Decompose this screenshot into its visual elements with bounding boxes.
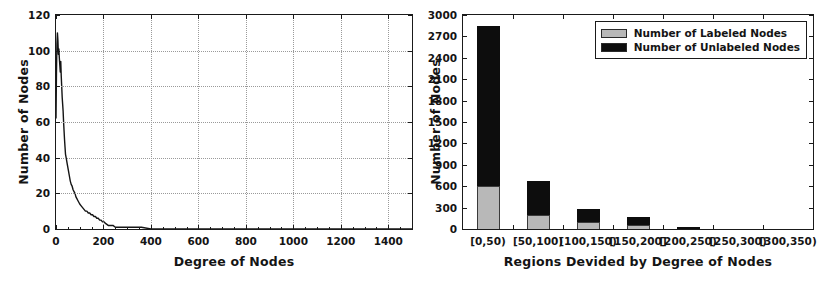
y-tick-label: 1500 (428, 116, 457, 128)
bar-segment-labeled (627, 225, 650, 229)
x-tick-mark (293, 15, 294, 19)
x-tick-label: [0,50) (470, 235, 506, 247)
left-chart-y-axis-label: Number of Nodes (16, 59, 31, 185)
x-tick-mark (151, 15, 152, 19)
x-tick-mark (341, 15, 342, 19)
y-tick-mark (463, 79, 467, 80)
y-tick-mark (463, 15, 467, 16)
bar-segment-labeled (477, 186, 500, 229)
x-minor-tick-mark (68, 227, 69, 229)
chart-legend: Number of Labeled NodesNumber of Unlabel… (595, 21, 807, 59)
gridline-vertical (198, 15, 199, 229)
x-tick-mark (103, 15, 104, 19)
x-minor-tick-mark (210, 227, 211, 229)
stacked-bar (627, 217, 650, 229)
y-tick-mark (809, 79, 813, 80)
bar-segment-unlabeled (527, 181, 550, 216)
y-tick-label: 1200 (428, 137, 457, 149)
x-minor-tick-mark (115, 227, 116, 229)
bar-segment-labeled (577, 222, 600, 229)
x-tick-mark (763, 15, 764, 19)
x-minor-tick-mark (127, 227, 128, 229)
y-tick-mark (56, 122, 60, 123)
x-tick-mark (341, 225, 342, 229)
right-chart-plot-area: Number of Labeled NodesNumber of Unlabel… (462, 14, 814, 230)
x-minor-tick-mark (281, 227, 282, 229)
y-tick-mark (809, 229, 813, 230)
y-tick-label: 3000 (428, 9, 457, 21)
legend-item: Number of Unlabeled Nodes (601, 40, 800, 54)
y-tick-label: 2400 (428, 52, 457, 64)
x-tick-mark (563, 225, 564, 229)
stacked-bar (527, 181, 550, 229)
bar-segment-labeled (527, 215, 550, 229)
stacked-bar (677, 227, 700, 229)
y-tick-mark (408, 158, 412, 159)
x-minor-tick-mark (270, 227, 271, 229)
x-minor-tick-mark (365, 227, 366, 229)
y-tick-mark (809, 122, 813, 123)
x-tick-label: 400 (140, 235, 162, 247)
x-minor-tick-mark (305, 227, 306, 229)
x-tick-label: 1200 (326, 235, 355, 247)
left-chart-plot-area (55, 14, 413, 230)
legend-label: Number of Unlabeled Nodes (634, 42, 800, 53)
y-tick-label: 40 (35, 152, 50, 164)
x-tick-mark (246, 15, 247, 19)
x-tick-mark (663, 15, 664, 19)
y-tick-mark (463, 101, 467, 102)
y-tick-label: 120 (28, 9, 50, 21)
y-tick-label: 300 (435, 202, 457, 214)
y-tick-label: 900 (435, 159, 457, 171)
gridline-horizontal (56, 86, 412, 87)
right-chart-x-axis-label: Regions Devided by Degree of Nodes (504, 254, 772, 269)
y-tick-mark (56, 51, 60, 52)
y-tick-mark (408, 86, 412, 87)
x-minor-tick-mark (353, 227, 354, 229)
x-tick-label: 200 (92, 235, 114, 247)
y-tick-label: 600 (435, 180, 457, 192)
y-tick-mark (463, 122, 467, 123)
y-tick-mark (809, 186, 813, 187)
x-tick-mark (56, 15, 57, 19)
x-tick-mark (151, 225, 152, 229)
gridline-horizontal (56, 51, 412, 52)
x-tick-label: [250,300) (709, 235, 766, 247)
y-tick-mark (463, 165, 467, 166)
y-tick-mark (463, 36, 467, 37)
y-tick-mark (408, 229, 412, 230)
y-tick-mark (56, 193, 60, 194)
x-minor-tick-mark (329, 227, 330, 229)
y-tick-label: 60 (35, 116, 50, 128)
x-tick-mark (388, 225, 389, 229)
bar-segment-unlabeled (577, 209, 600, 221)
bar-segment-unlabeled (627, 217, 650, 225)
x-tick-mark (663, 225, 664, 229)
legend-item: Number of Labeled Nodes (601, 26, 800, 40)
x-tick-label: [300,350) (759, 235, 816, 247)
x-minor-tick-mark (187, 227, 188, 229)
x-tick-mark (198, 15, 199, 19)
gridline-vertical (151, 15, 152, 229)
x-tick-label: [200,250) (659, 235, 716, 247)
gridline-vertical (293, 15, 294, 229)
stacked-bar (477, 26, 500, 229)
gridline-vertical (246, 15, 247, 229)
y-tick-mark (463, 186, 467, 187)
x-minor-tick-mark (400, 227, 401, 229)
stacked-bar (577, 209, 600, 229)
y-tick-mark (809, 58, 813, 59)
x-tick-mark (513, 225, 514, 229)
y-tick-label: 2700 (428, 30, 457, 42)
x-tick-label: 800 (235, 235, 257, 247)
legend-swatch-icon (601, 29, 627, 38)
y-tick-label: 80 (35, 80, 50, 92)
gridline-vertical (341, 15, 342, 229)
x-minor-tick-mark (258, 227, 259, 229)
figure-two-panel: Number of Nodes 020406080100120 02004006… (0, 0, 838, 288)
y-tick-mark (809, 208, 813, 209)
x-minor-tick-mark (234, 227, 235, 229)
x-tick-label: 1000 (279, 235, 308, 247)
x-tick-mark (56, 225, 57, 229)
x-tick-mark (713, 225, 714, 229)
